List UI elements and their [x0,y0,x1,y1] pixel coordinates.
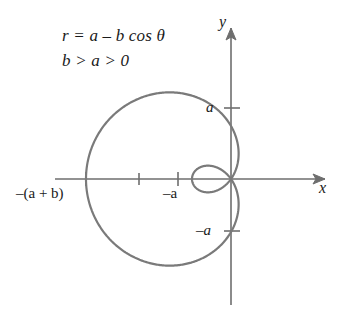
y-tick-label-neg-a: –a [196,223,211,238]
limacon-plot [0,0,342,319]
y-tick-label-a: a [206,100,214,115]
x-tick-label-neg-a: –a [163,186,177,201]
x-tick-label-neg-a-plus-b: –(a + b) [16,186,64,201]
equation-condition: b > a > 0 [62,52,129,69]
equation-primary: r = a – b cos θ [62,27,165,44]
x-axis-label: x [319,180,326,196]
polar-curve-figure: r = a – b cos θ b > a > 0 y x a –a –a –(… [0,0,342,319]
y-axis-label: y [219,14,226,30]
